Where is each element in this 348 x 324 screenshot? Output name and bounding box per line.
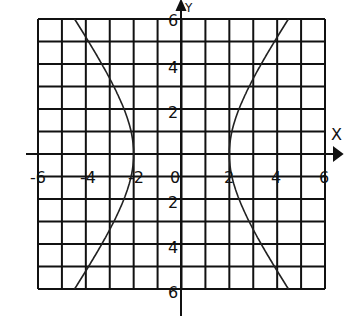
x-tick-label: 6 bbox=[319, 168, 329, 187]
x-tick-label: -2 bbox=[128, 168, 144, 187]
origin-label: 0 bbox=[170, 168, 180, 187]
x-axis-label: X bbox=[331, 125, 342, 144]
y-axis-arrow-icon bbox=[177, 1, 185, 10]
y-tick-label: 4 bbox=[168, 238, 178, 257]
y-tick-label: 6 bbox=[168, 283, 178, 302]
y-tick-label: 2 bbox=[168, 103, 178, 122]
axes bbox=[26, 1, 342, 316]
x-tick-label: -4 bbox=[80, 168, 96, 187]
x-tick-label: -6 bbox=[30, 168, 46, 187]
x-axis-arrow-icon bbox=[334, 148, 342, 160]
y-axis-label: Y bbox=[184, 1, 193, 15]
x-tick-label: 2 bbox=[224, 168, 234, 187]
hyperbola-chart: X Y -6 -4 -2 0 2 4 6 6 4 2 2 4 6 bbox=[0, 0, 348, 324]
y-tick-label: 2 bbox=[168, 193, 178, 212]
y-tick-label: 6 bbox=[168, 11, 178, 30]
y-tick-label: 4 bbox=[168, 58, 178, 77]
x-tick-label: 4 bbox=[271, 168, 281, 187]
